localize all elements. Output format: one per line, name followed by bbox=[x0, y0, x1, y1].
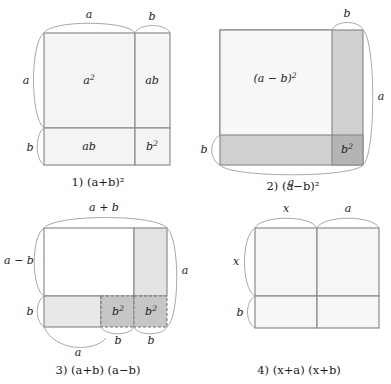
brace-top-x bbox=[255, 218, 317, 228]
edge-label-left-b: b bbox=[26, 305, 33, 318]
figure-4-caption: 4) (x+a) (x+b) bbox=[257, 363, 341, 377]
region-top-right bbox=[317, 228, 379, 296]
figure-3-caption: 3) (a+b) (a−b) bbox=[56, 363, 141, 377]
figure-1-a-plus-b-squared: a b a b a2 ab ab b2 1) (a+b)² bbox=[0, 0, 196, 192]
brace-top-a bbox=[44, 23, 135, 33]
brace-left-b bbox=[37, 128, 44, 165]
brace-top-b bbox=[332, 23, 363, 31]
edge-label-top-b: b bbox=[343, 7, 350, 20]
brace-left-a bbox=[34, 33, 45, 128]
edge-label-left-b: b bbox=[236, 306, 243, 319]
edge-label-top-a: a bbox=[345, 202, 352, 215]
brace-left-x bbox=[245, 228, 256, 296]
edge-label-top-b: b bbox=[148, 10, 155, 23]
region-label-a-minus-b-squared: (a − b)2 bbox=[253, 71, 296, 85]
figure-2-a-minus-b-squared: b a b a (a − b)2 b2 2) (a−b)² bbox=[195, 0, 391, 192]
brace-left-b bbox=[248, 296, 256, 328]
brace-bottom-a bbox=[220, 165, 363, 175]
region-bottom-left bbox=[255, 296, 317, 328]
figure-2-caption: 2) (a−b)² bbox=[267, 179, 320, 192]
edge-label-left-a-minus-b: a − b bbox=[4, 254, 34, 267]
region-right-column bbox=[134, 228, 167, 296]
edge-label-right-a: a bbox=[182, 264, 189, 277]
edge-label-top-a-plus-b: a + b bbox=[89, 201, 119, 214]
edge-label-left-b: b bbox=[200, 143, 207, 156]
edge-label-right-a: a bbox=[378, 90, 385, 103]
diagram-sheet: a b a b a2 ab ab b2 1) (a+b)² bbox=[0, 0, 391, 384]
region-top-left bbox=[255, 228, 317, 296]
region-bottom-right bbox=[317, 296, 379, 328]
brace-right-a bbox=[363, 30, 373, 165]
brace-left-b bbox=[37, 296, 44, 327]
brace-right-a bbox=[167, 228, 177, 327]
brace-top-a-plus-b bbox=[44, 218, 167, 229]
figure-1-caption: 1) (a+b)² bbox=[72, 175, 125, 189]
edge-label-left-a: a bbox=[23, 74, 30, 87]
edge-label-left-x: x bbox=[233, 255, 240, 268]
edge-label-left-b: b bbox=[26, 141, 33, 154]
figure-4-x-plus-a-times-x-plus-b: x a x b 4) (x+a) (x+b) bbox=[195, 192, 391, 384]
edge-label-top-a: a bbox=[86, 8, 93, 21]
edge-label-bottom-b-right: b bbox=[147, 334, 154, 347]
brace-top-a bbox=[317, 218, 379, 228]
brace-left-b bbox=[212, 135, 220, 165]
brace-bottom-b-right bbox=[134, 327, 167, 334]
brace-top-b bbox=[135, 26, 170, 34]
region-label-ab-top-right: ab bbox=[145, 74, 159, 87]
figure-3-a-plus-b-times-a-minus-b: a + b a − b b a b b a b2 b2 3) (a+b) (a−… bbox=[0, 192, 196, 384]
brace-bottom-a bbox=[44, 327, 106, 347]
edge-label-top-x: x bbox=[283, 202, 290, 215]
region-bottom-left-strip bbox=[44, 296, 101, 327]
brace-left-a-minus-b bbox=[34, 228, 44, 296]
region-main-white bbox=[44, 228, 134, 296]
edge-label-bottom-b-mid: b bbox=[114, 334, 121, 347]
brace-bottom-b-left bbox=[101, 327, 134, 334]
edge-label-bottom-a: a bbox=[75, 346, 82, 359]
region-label-ab-bottom-left: ab bbox=[82, 140, 96, 153]
